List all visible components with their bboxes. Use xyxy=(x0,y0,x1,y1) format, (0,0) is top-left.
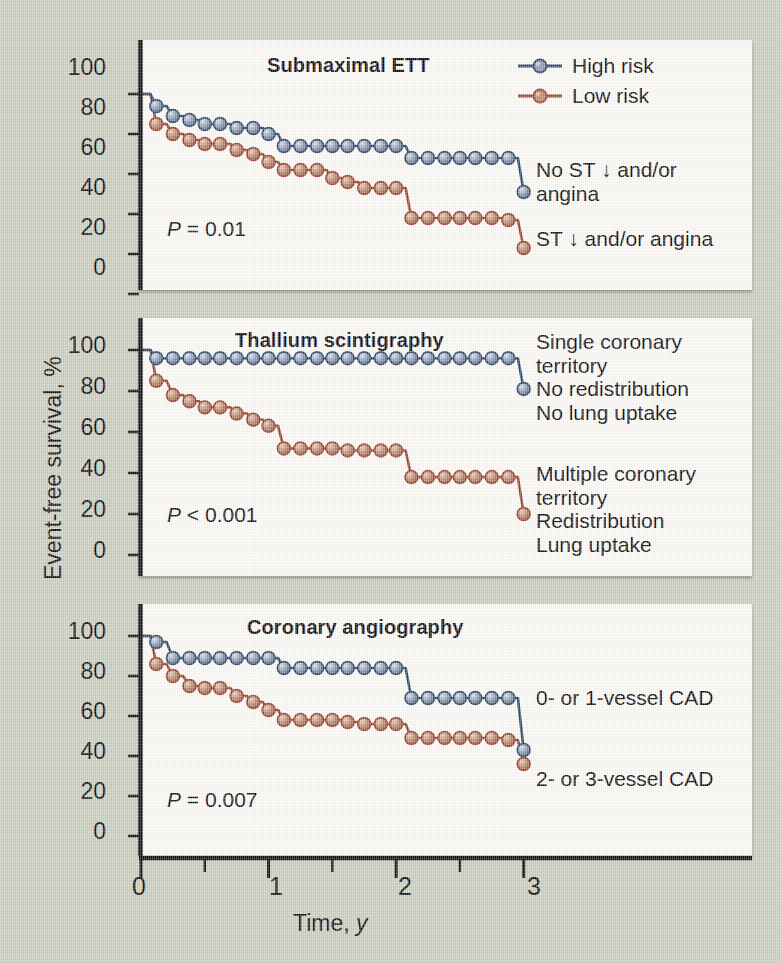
data-point-marker xyxy=(374,182,387,195)
data-point-marker xyxy=(469,352,482,365)
ytick-b-100: 100 xyxy=(58,332,106,359)
data-point-marker xyxy=(230,690,243,703)
data-point-marker xyxy=(150,658,163,671)
data-point-marker xyxy=(294,140,307,153)
panel-c-pvalue-value: = 0.007 xyxy=(181,788,257,811)
data-point-marker xyxy=(311,164,324,177)
data-point-marker xyxy=(247,652,260,665)
data-point-marker xyxy=(294,352,307,365)
data-point-marker xyxy=(166,128,179,141)
data-point-marker xyxy=(485,352,498,365)
data-point-marker xyxy=(198,138,211,151)
curve-c-high-risk xyxy=(141,636,524,750)
data-point-marker xyxy=(358,352,371,365)
xtick-0: 0 xyxy=(119,872,159,901)
panel-a-title: Submaximal ETT xyxy=(267,54,430,77)
data-point-marker xyxy=(183,680,196,693)
panel-c-label-low: 2- or 3-vessel CAD xyxy=(536,767,713,791)
data-point-marker xyxy=(341,662,354,675)
data-point-marker xyxy=(390,182,403,195)
data-point-marker xyxy=(214,352,227,365)
data-point-marker xyxy=(438,212,451,225)
ytick-c-60: 60 xyxy=(58,698,106,725)
data-point-marker xyxy=(166,352,179,365)
data-point-marker xyxy=(517,383,530,396)
data-point-marker xyxy=(502,692,515,705)
ytick-a-60: 60 xyxy=(58,134,106,161)
data-point-marker xyxy=(422,732,435,745)
data-point-marker xyxy=(230,122,243,135)
data-point-marker xyxy=(454,352,467,365)
data-point-marker xyxy=(183,114,196,127)
data-point-marker xyxy=(469,152,482,165)
data-point-marker xyxy=(374,352,387,365)
data-point-marker xyxy=(485,152,498,165)
curve-b-low-risk xyxy=(141,350,524,514)
data-point-marker xyxy=(390,352,403,365)
data-point-marker xyxy=(262,419,275,432)
panel-c-title: Coronary angiography xyxy=(247,616,463,639)
data-point-marker xyxy=(454,152,467,165)
data-point-marker xyxy=(183,652,196,665)
data-point-marker xyxy=(422,352,435,365)
data-point-marker xyxy=(214,138,227,151)
panel-b-pvalue-value: < 0.001 xyxy=(181,503,257,526)
data-point-marker xyxy=(277,714,290,727)
data-point-marker xyxy=(166,110,179,123)
panel-b-title: Thallium scintigraphy xyxy=(235,329,444,352)
data-point-marker xyxy=(294,714,307,727)
data-point-marker xyxy=(294,164,307,177)
data-point-marker xyxy=(502,734,515,747)
data-point-marker xyxy=(422,152,435,165)
data-point-marker xyxy=(230,652,243,665)
data-point-marker xyxy=(198,401,211,414)
data-point-marker xyxy=(454,732,467,745)
data-point-marker xyxy=(405,152,418,165)
data-point-marker xyxy=(262,352,275,365)
data-point-marker xyxy=(517,758,530,771)
panel-a-pvalue: P = 0.01 xyxy=(167,217,246,241)
data-point-marker xyxy=(294,662,307,675)
data-point-marker xyxy=(485,692,498,705)
panel-a-pvalue-symbol: P xyxy=(167,217,181,240)
data-point-marker xyxy=(405,692,418,705)
data-point-marker xyxy=(150,100,163,113)
data-point-marker xyxy=(198,352,211,365)
data-point-marker xyxy=(502,352,515,365)
data-point-marker xyxy=(358,182,371,195)
data-point-marker xyxy=(405,352,418,365)
data-point-marker xyxy=(502,471,515,484)
data-point-marker xyxy=(214,401,227,414)
data-point-marker xyxy=(517,508,530,521)
data-point-marker xyxy=(150,118,163,131)
data-point-marker xyxy=(277,352,290,365)
data-point-marker xyxy=(517,242,530,255)
data-point-marker xyxy=(454,212,467,225)
panel-a-pvalue-value: = 0.01 xyxy=(181,217,246,240)
data-point-marker xyxy=(358,718,371,731)
panel-c-label-high: 0- or 1-vessel CAD xyxy=(536,686,713,710)
data-point-marker xyxy=(247,696,260,709)
panel-b-pvalue: P < 0.001 xyxy=(167,503,258,527)
data-point-marker xyxy=(422,471,435,484)
data-point-marker xyxy=(311,714,324,727)
data-point-marker xyxy=(469,692,482,705)
ytick-a-40: 40 xyxy=(58,174,106,201)
data-point-marker xyxy=(502,214,515,227)
data-point-marker xyxy=(405,471,418,484)
x-axis-title: Time, y xyxy=(293,910,368,937)
data-point-marker xyxy=(502,152,515,165)
data-point-marker xyxy=(454,692,467,705)
ytick-a-100: 100 xyxy=(58,54,106,81)
data-point-marker xyxy=(358,662,371,675)
data-point-marker xyxy=(277,164,290,177)
data-point-marker xyxy=(438,471,451,484)
data-point-marker xyxy=(485,732,498,745)
data-point-marker xyxy=(454,471,467,484)
data-point-marker xyxy=(469,212,482,225)
data-point-marker xyxy=(262,652,275,665)
data-point-marker xyxy=(390,718,403,731)
data-point-marker xyxy=(150,636,163,649)
data-point-marker xyxy=(311,352,324,365)
data-point-marker xyxy=(517,744,530,757)
